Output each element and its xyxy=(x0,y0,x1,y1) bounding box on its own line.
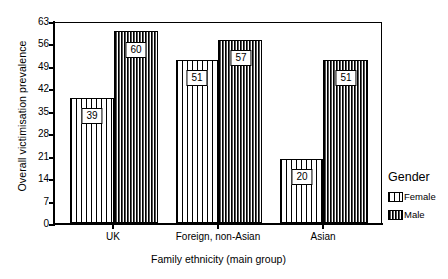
legend-swatch-male-icon xyxy=(388,210,403,220)
y-tick-mark xyxy=(49,224,55,226)
bar-foreign-male[interactable] xyxy=(218,40,262,223)
y-tick-label: 42 xyxy=(9,84,49,94)
x-tick-mark xyxy=(112,224,114,229)
data-label-foreign-male: 57 xyxy=(230,50,251,66)
x-tick-label-foreign: Foreign, non-Asian xyxy=(176,231,261,242)
legend-label-female: Female xyxy=(404,191,436,202)
legend-item-male[interactable]: Male xyxy=(388,209,448,220)
x-axis-title: Family ethnicity (main group) xyxy=(55,253,382,265)
data-label-uk-male: 60 xyxy=(125,42,146,58)
data-label-asian-female: 20 xyxy=(291,169,312,185)
y-tick-label: 14 xyxy=(9,174,49,184)
y-tick-label: 0 xyxy=(9,219,49,229)
legend-title: Gender xyxy=(388,170,448,184)
legend-swatch-female-icon xyxy=(388,192,403,202)
data-label-foreign-female: 51 xyxy=(186,70,207,86)
y-tick-label: 63 xyxy=(9,17,49,27)
y-tick-label: 49 xyxy=(9,62,49,72)
data-label-uk-female: 39 xyxy=(81,108,102,124)
bars-layer xyxy=(54,23,381,223)
x-tick-label-asian: Asian xyxy=(310,231,335,242)
y-tick-label: 28 xyxy=(9,129,49,139)
legend-label-male: Male xyxy=(404,209,425,220)
y-tick-label: 35 xyxy=(9,107,49,117)
bar-chart: Overall victimisation prevalence 63 56 4… xyxy=(0,0,448,279)
y-tick-label: 21 xyxy=(9,152,49,162)
legend: Gender Female Male xyxy=(388,170,448,227)
x-tick-label-uk: UK xyxy=(106,231,120,242)
bar-uk-male[interactable] xyxy=(114,31,158,223)
legend-item-female[interactable]: Female xyxy=(388,191,448,202)
data-label-asian-male: 51 xyxy=(335,70,356,86)
x-tick-mark xyxy=(322,224,324,229)
y-tick-label: 56 xyxy=(9,39,49,49)
y-tick-label: 7 xyxy=(9,197,49,207)
x-tick-mark xyxy=(217,224,219,229)
